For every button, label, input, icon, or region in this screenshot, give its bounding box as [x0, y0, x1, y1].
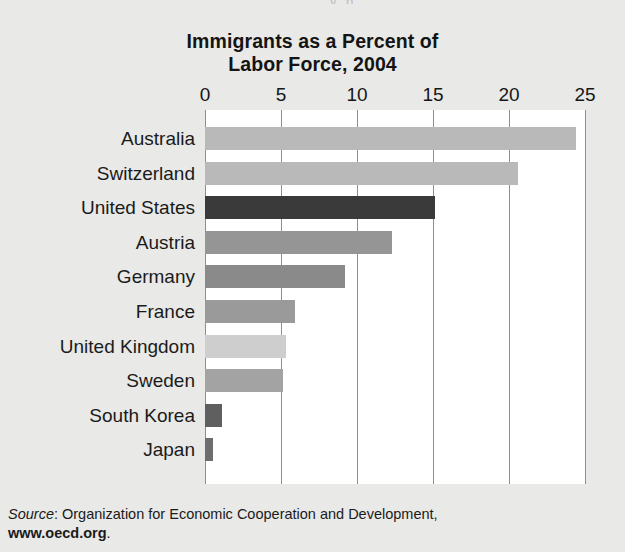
category-label-switzerland: Switzerland: [0, 162, 200, 185]
chart-title: Immigrants as a Percent of Labor Force, …: [0, 30, 625, 76]
category-label-south-korea: South Korea: [0, 404, 200, 427]
x-tick-label-25: 25: [574, 84, 595, 106]
category-label-australia: Australia: [0, 127, 200, 150]
bar-switzerland: [205, 162, 518, 185]
bar-australia: [205, 127, 576, 150]
chart-title-line-2: Labor Force, 2004: [0, 53, 625, 76]
bar-fill: [205, 438, 213, 461]
bar-series: [205, 110, 585, 484]
category-label-japan: Japan: [0, 438, 200, 461]
category-label-sweden: Sweden: [0, 369, 200, 392]
category-axis-labels: AustraliaSwitzerlandUnited StatesAustria…: [0, 110, 200, 484]
bar-south-korea: [205, 404, 222, 427]
bar-fill: [205, 265, 345, 288]
source-url: www.oecd.org: [8, 525, 107, 541]
bar-fill: [205, 127, 576, 150]
x-tick-label-10: 10: [346, 84, 367, 106]
source-note: Source: Organization for Economic Cooper…: [8, 505, 608, 543]
bar-germany: [205, 265, 345, 288]
plot-area: [205, 110, 585, 484]
bar-france: [205, 300, 295, 323]
bar-japan: [205, 438, 213, 461]
x-axis-tick-labels: 0510152025: [0, 84, 625, 108]
bar-united-states: [205, 196, 435, 219]
bar-fill: [205, 335, 286, 358]
bar-austria: [205, 231, 392, 254]
bar-fill: [205, 162, 518, 185]
category-label-austria: Austria: [0, 231, 200, 254]
x-tick-label-15: 15: [422, 84, 443, 106]
source-separator: :: [54, 506, 62, 522]
x-tick-label-5: 5: [276, 84, 287, 106]
category-label-france: France: [0, 300, 200, 323]
category-label-united-states: United States: [0, 196, 200, 219]
x-tick-label-0: 0: [200, 84, 211, 106]
source-organization: Organization for Economic Cooperation an…: [62, 506, 438, 522]
bar-fill: [205, 300, 295, 323]
bar-fill: [205, 231, 392, 254]
bar-fill: [205, 196, 435, 219]
x-tick-label-20: 20: [498, 84, 519, 106]
bar-fill: [205, 404, 222, 427]
page-top-artifact: y p: [330, 0, 370, 4]
bar-sweden: [205, 369, 283, 392]
source-period: .: [107, 525, 111, 541]
gridline-25: [585, 110, 586, 484]
bar-united-kingdom: [205, 335, 286, 358]
category-label-germany: Germany: [0, 265, 200, 288]
source-label: Source: [8, 506, 54, 522]
bar-fill: [205, 369, 283, 392]
chart-title-line-1: Immigrants as a Percent of: [0, 30, 625, 53]
category-label-united-kingdom: United Kingdom: [0, 335, 200, 358]
